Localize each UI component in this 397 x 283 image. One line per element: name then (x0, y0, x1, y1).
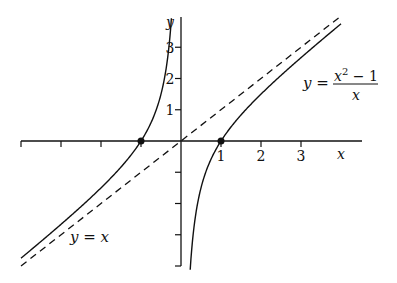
line-equation-label: y = x (69, 228, 110, 246)
x-tick-label-3: 3 (297, 148, 306, 164)
x-tick-label-2: 2 (257, 148, 266, 164)
y-tick-label-1: 1 (166, 102, 175, 118)
equation-denominator: x (352, 87, 360, 103)
point-x-1 (218, 138, 225, 145)
x-tick-label-1: 1 (217, 148, 226, 164)
equation-numerator-x: x (334, 68, 342, 84)
point-x-minus-1 (138, 138, 145, 145)
curve-equation-label: y = x2 − 1 x (302, 66, 378, 103)
svg-text:y =: y = (302, 74, 329, 92)
svg-text:x2 − 1: x2 − 1 (334, 66, 378, 84)
equation-numerator-rest: − 1 (348, 68, 378, 84)
y-tick-label-3: 3 (166, 40, 175, 56)
y-axis-label: y (165, 14, 175, 30)
equation-lhs: y = (302, 74, 329, 92)
curve-right-branch (190, 24, 341, 270)
y-tick-label-2: 2 (166, 71, 175, 87)
curve-left-branch (21, 18, 171, 258)
function-plot: 1 2 3 x 1 2 3 y y = x2 − 1 x y = x (0, 0, 397, 283)
x-axis-label: x (337, 146, 345, 162)
